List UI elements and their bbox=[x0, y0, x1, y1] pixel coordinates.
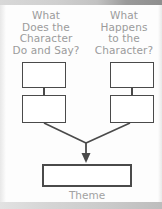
box-theme[interactable] bbox=[42, 164, 132, 187]
scan-band-top bbox=[0, 0, 162, 5]
box-left-lower[interactable] bbox=[22, 95, 66, 123]
arrow-left-branch bbox=[44, 123, 86, 143]
box-right-lower[interactable] bbox=[110, 95, 154, 123]
arrow-head-icon bbox=[82, 153, 91, 163]
heading-left: What Does the Character Do and Say? bbox=[6, 10, 86, 56]
theme-label: Theme bbox=[42, 189, 132, 201]
heading-right: What Happens to the Character? bbox=[88, 10, 160, 56]
graphic-organizer-diagram: What Does the Character Do and Say? What… bbox=[0, 0, 162, 209]
connector-left-vertical bbox=[43, 88, 45, 95]
arrow-right-branch bbox=[86, 123, 130, 143]
scan-band-bottom bbox=[0, 202, 162, 209]
box-right-upper[interactable] bbox=[110, 62, 154, 88]
connector-right-vertical bbox=[131, 88, 133, 95]
box-left-upper[interactable] bbox=[22, 62, 66, 88]
